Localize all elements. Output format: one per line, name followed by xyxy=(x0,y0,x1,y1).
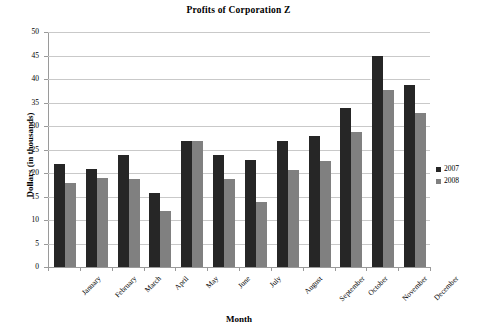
y-tick-label: 10 xyxy=(15,216,39,224)
bar-group xyxy=(277,32,299,267)
bar-december-2008 xyxy=(415,113,426,267)
x-tick-mark xyxy=(303,267,304,271)
bar-february-2007 xyxy=(86,169,97,267)
y-tick-mark xyxy=(44,126,48,127)
bar-group xyxy=(213,32,235,267)
bar-august-2008 xyxy=(288,170,299,267)
y-tick-label: 0 xyxy=(15,263,39,271)
bar-april-2007 xyxy=(149,193,160,267)
plot-area: 05101520253035404550 xyxy=(48,32,430,267)
bar-april-2008 xyxy=(160,211,171,267)
y-tick-mark xyxy=(44,173,48,174)
x-tick-label-march: March xyxy=(142,274,162,294)
y-tick-label: 40 xyxy=(15,75,39,83)
bar-june-2008 xyxy=(224,179,235,267)
y-tick-mark xyxy=(44,56,48,57)
y-tick-mark xyxy=(44,220,48,221)
x-tick-label-october: October xyxy=(366,274,389,297)
legend-label: 2008 xyxy=(444,177,459,185)
x-tick-label-july: July xyxy=(268,274,283,289)
bar-may-2008 xyxy=(192,141,203,267)
bar-march-2007 xyxy=(118,155,129,267)
y-tick-mark xyxy=(44,79,48,80)
bar-november-2008 xyxy=(383,90,394,267)
x-tick-mark xyxy=(175,267,176,271)
y-tick-label: 35 xyxy=(15,99,39,107)
x-tick-label-december: December xyxy=(432,274,460,302)
bar-group xyxy=(54,32,76,267)
x-tick-label-may: May xyxy=(204,274,220,290)
x-axis-title: Month xyxy=(48,314,430,324)
x-tick-mark xyxy=(335,267,336,271)
x-tick-label-february: February xyxy=(113,274,139,300)
bar-october-2008 xyxy=(351,132,362,267)
x-tick-mark xyxy=(112,267,113,271)
legend-label: 2007 xyxy=(444,165,459,173)
bar-group xyxy=(309,32,331,267)
bar-september-2007 xyxy=(309,136,320,267)
bar-group xyxy=(340,32,362,267)
bar-group xyxy=(245,32,267,267)
y-tick-label: 5 xyxy=(15,240,39,248)
bar-june-2007 xyxy=(213,155,224,267)
bar-group xyxy=(118,32,140,267)
x-tick-mark xyxy=(144,267,145,271)
x-tick-mark xyxy=(271,267,272,271)
bar-november-2007 xyxy=(372,56,383,267)
bar-august-2007 xyxy=(277,141,288,267)
x-tick-label-june: June xyxy=(236,274,252,290)
chart-legend: 20072008 xyxy=(436,163,459,187)
bar-february-2008 xyxy=(97,178,108,267)
bar-group xyxy=(404,32,426,267)
bar-july-2007 xyxy=(245,160,256,267)
y-tick-label: 50 xyxy=(15,28,39,36)
bar-july-2008 xyxy=(256,202,267,267)
y-tick-label: 25 xyxy=(15,146,39,154)
y-tick-mark xyxy=(44,244,48,245)
x-tick-mark xyxy=(430,267,431,271)
chart-title: Profits of Corporation Z xyxy=(0,5,477,15)
bar-chart: Profits of Corporation Z Dollars (in tho… xyxy=(0,0,477,333)
y-tick-mark xyxy=(44,103,48,104)
bar-group xyxy=(181,32,203,267)
bar-group xyxy=(149,32,171,267)
x-tick-mark xyxy=(239,267,240,271)
bar-group xyxy=(86,32,108,267)
x-tick-label-september: September xyxy=(337,274,366,303)
x-tick-label-january: January xyxy=(80,274,103,297)
x-tick-mark xyxy=(398,267,399,271)
x-tick-mark xyxy=(366,267,367,271)
legend-swatch-icon xyxy=(436,167,441,172)
bar-december-2007 xyxy=(404,85,415,267)
bar-october-2007 xyxy=(340,108,351,267)
y-tick-label: 15 xyxy=(15,193,39,201)
x-tick-label-august: August xyxy=(302,274,324,296)
x-tick-mark xyxy=(48,267,49,271)
x-tick-mark xyxy=(207,267,208,271)
bar-march-2008 xyxy=(129,179,140,267)
bar-september-2008 xyxy=(320,161,331,267)
legend-item-2008[interactable]: 2008 xyxy=(436,175,459,187)
bar-january-2008 xyxy=(65,183,76,267)
y-tick-mark xyxy=(44,32,48,33)
y-tick-mark xyxy=(44,197,48,198)
bar-group xyxy=(372,32,394,267)
y-tick-label: 45 xyxy=(15,52,39,60)
x-tick-label-november: November xyxy=(401,274,430,303)
bar-january-2007 xyxy=(54,164,65,267)
y-tick-mark xyxy=(44,150,48,151)
legend-item-2007[interactable]: 2007 xyxy=(436,163,459,175)
x-tick-mark xyxy=(80,267,81,271)
y-tick-label: 20 xyxy=(15,169,39,177)
legend-swatch-icon xyxy=(436,179,441,184)
y-tick-label: 30 xyxy=(15,122,39,130)
bar-may-2007 xyxy=(181,141,192,267)
x-tick-label-april: April xyxy=(173,274,191,292)
